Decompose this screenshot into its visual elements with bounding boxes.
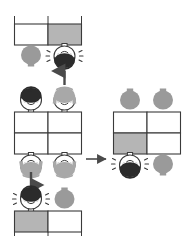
- cell-0-1: [48, 211, 82, 232]
- face-below-right-excited: [54, 44, 75, 70]
- cell-1-1: [147, 133, 181, 154]
- cell-0-0: [15, 112, 49, 133]
- tick-marks-top: [15, 16, 82, 24]
- panel-top-left: [15, 16, 84, 70]
- panel-bottom-left: [13, 185, 82, 236]
- grid-top-left: [15, 24, 82, 45]
- face-above-left: [20, 86, 41, 112]
- tick-marks-bottom: [15, 232, 82, 236]
- blob-above-right: [55, 188, 75, 209]
- cell-0-1: [48, 24, 82, 45]
- cell-0-1: [48, 112, 82, 133]
- cell-0-0: [15, 211, 49, 232]
- grid-middle-right: [114, 112, 181, 154]
- cell-0-1: [147, 112, 181, 133]
- blob-above-right: [153, 89, 173, 110]
- face-below-right: [53, 153, 77, 179]
- cell-0-0: [15, 24, 49, 45]
- blob-below-right: [153, 154, 173, 175]
- cell-1-1: [48, 133, 82, 154]
- panel-middle-right: [112, 89, 181, 179]
- panel-middle-left: [15, 86, 82, 178]
- face-above-left-excited: [20, 185, 41, 211]
- cell-0-0: [114, 112, 148, 133]
- cell-1-0: [15, 133, 49, 154]
- cell-1-0: [114, 133, 148, 154]
- face-above-right: [53, 87, 77, 113]
- blob-below-left: [21, 45, 41, 66]
- grid-middle-left: [15, 112, 82, 154]
- blob-above-left: [120, 89, 140, 110]
- grid-bottom-left: [15, 211, 82, 232]
- figure-canvas: [0, 0, 183, 236]
- face-below-left-excited: [119, 153, 140, 179]
